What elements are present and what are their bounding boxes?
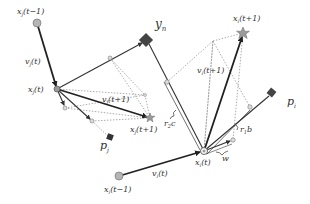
- r2c-segment: [164, 82, 200, 150]
- label-vj-next: vj(t+1): [102, 95, 129, 106]
- label-xj-prev: xj(t−1): [17, 7, 44, 18]
- label-xj-next: xj(t+1): [130, 125, 157, 136]
- xj-sum-point: [144, 94, 147, 97]
- xi-to-yn-line: [149, 44, 204, 151]
- velocity-vi-next-arrow: [204, 37, 242, 151]
- xi-current-node-inner: [203, 150, 206, 153]
- xj-prev-node: [33, 19, 41, 27]
- label-pi: pi: [287, 95, 296, 109]
- label-xj-t: xj(t): [28, 85, 44, 96]
- r2c-brace: [170, 110, 176, 119]
- pj-diamond-icon: [106, 133, 114, 141]
- label-w: w: [222, 154, 229, 163]
- xi-social-point: [165, 80, 169, 84]
- xj-to-yn-line: [57, 43, 142, 89]
- r1b-brace: [236, 125, 238, 130]
- xi-next-star-icon: [237, 27, 250, 39]
- label-xi-t: xi(t): [195, 158, 211, 168]
- xj-social-point: [108, 56, 112, 60]
- xj-next-star-icon: [145, 113, 155, 122]
- xj-inertia-point: [63, 106, 67, 110]
- label-pj: pj: [100, 139, 109, 154]
- xj-cognitive-point: [90, 119, 94, 123]
- particle-j-group: [33, 19, 155, 141]
- label-xi-next: xi(t+1): [233, 14, 260, 24]
- xi-prev-node: [115, 172, 123, 180]
- xj-current-node: [54, 86, 60, 92]
- label-r2c: r2c: [164, 119, 176, 129]
- velocity-vj-t-arrow: [37, 23, 56, 86]
- label-yn: yn: [154, 17, 167, 33]
- label-vi-t: vi(t): [152, 169, 168, 179]
- label-vi-next: vi(t+1): [197, 66, 224, 76]
- label-xi-prev: xi(t−1): [104, 185, 131, 195]
- label-vj-t: vj(t): [25, 57, 41, 68]
- xi-inertia-point: [231, 138, 235, 142]
- pi-diamond-icon: [267, 88, 277, 98]
- yn-diamond-icon: [139, 33, 153, 47]
- xi-cognitive-point: [248, 105, 252, 109]
- pso-diagram: xj(t−1) vj(t) xj(t) vj(t+1) xj(t+1) pj y…: [0, 0, 310, 204]
- label-r1b: r1b: [240, 125, 252, 135]
